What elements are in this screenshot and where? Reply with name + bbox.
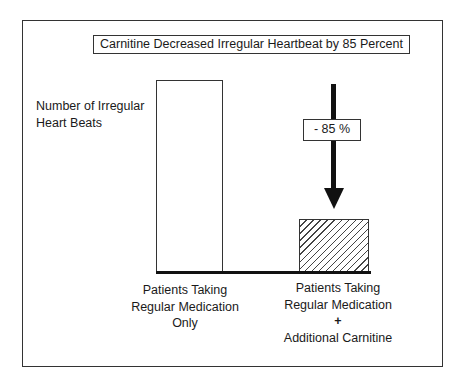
category-label-1-line-1: Patients Taking — [110, 282, 260, 299]
category-label-1: Patients Taking Regular Medication Only — [110, 282, 260, 332]
y-axis-label: Number of Irregular Heart Beats — [36, 98, 144, 132]
bar-regular-medication-only — [156, 80, 223, 272]
category-label-2-line-2: Regular Medication — [263, 297, 413, 314]
category-label-2-line-4: Additional Carnitine — [263, 330, 413, 347]
category-label-2-line-1: Patients Taking — [263, 280, 413, 297]
bar-regular-medication-plus-carnitine — [299, 219, 369, 272]
category-label-2: Patients Taking Regular Medication + Add… — [263, 280, 413, 346]
y-axis-label-line-2: Heart Beats — [36, 115, 144, 132]
category-label-1-line-2: Regular Medication — [110, 299, 260, 316]
plus-icon: + — [263, 313, 413, 330]
reduction-annotation: - 85 % — [303, 119, 361, 141]
category-label-1-line-3: Only — [110, 315, 260, 332]
chart-title: Carnitine Decreased Irregular Heartbeat … — [93, 35, 410, 54]
y-axis-label-line-1: Number of Irregular — [36, 98, 144, 115]
x-axis-baseline — [156, 271, 371, 274]
down-arrow-head-icon — [324, 188, 344, 209]
